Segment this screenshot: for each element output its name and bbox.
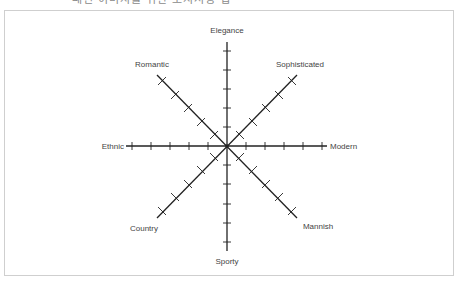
label-modern: Modern	[330, 142, 357, 151]
center-point	[225, 144, 229, 148]
label-sporty: Sporty	[215, 257, 238, 266]
label-romantic: Romantic	[135, 60, 169, 69]
label-ethnic: Ethnic	[102, 142, 124, 151]
label-country: Country	[130, 224, 158, 233]
label-sophisticated: Sophisticated	[276, 60, 324, 69]
label-elegance: Elegance	[210, 26, 244, 35]
label-mannish: Mannish	[303, 222, 333, 231]
positioning-map: Elegance Sporty Ethnic Modern Romantic S…	[0, 0, 459, 281]
